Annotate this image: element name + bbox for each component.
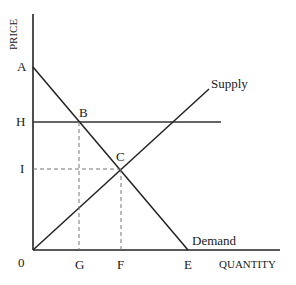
x-axis-label: QUANTITY [219, 259, 276, 270]
label-a: A [17, 60, 26, 73]
diagram-canvas [0, 0, 296, 285]
label-c: C [116, 150, 125, 163]
demand-curve [33, 67, 188, 250]
supply-label: Supply [211, 77, 248, 90]
demand-label: Demand [192, 234, 236, 247]
label-g: G [75, 258, 84, 271]
label-f: F [117, 258, 124, 271]
origin-label: 0 [18, 256, 25, 269]
label-e: E [184, 258, 192, 271]
label-h: H [16, 115, 25, 128]
label-b: B [79, 106, 88, 119]
label-i: I [20, 162, 24, 175]
y-axis-label: PRICE [7, 19, 19, 50]
